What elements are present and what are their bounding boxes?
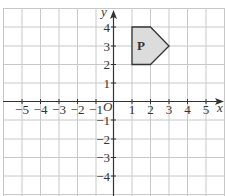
x-axis-label: x xyxy=(216,100,223,115)
svg-text:2: 2 xyxy=(104,57,111,72)
svg-text:3: 3 xyxy=(104,39,111,54)
svg-text:1: 1 xyxy=(104,76,111,91)
origin-label: O xyxy=(103,99,113,114)
svg-text:−3: −3 xyxy=(96,150,110,165)
svg-text:−5: −5 xyxy=(15,102,29,117)
svg-text:−3: −3 xyxy=(52,102,66,117)
svg-text:−2: −2 xyxy=(96,132,110,147)
svg-text:3: 3 xyxy=(166,102,173,117)
svg-text:−4: −4 xyxy=(34,102,48,117)
svg-text:−2: −2 xyxy=(71,102,85,117)
shape-label: P xyxy=(137,38,145,53)
coordinate-grid: −5 −4 −3 −2 −1 1 2 3 4 5 4 3 2 1 −1 −2 −… xyxy=(0,0,226,196)
svg-text:−4: −4 xyxy=(96,169,110,184)
svg-text:5: 5 xyxy=(203,102,210,117)
y-axis-label: y xyxy=(99,4,107,19)
svg-text:1: 1 xyxy=(129,102,136,117)
svg-text:4: 4 xyxy=(104,20,111,35)
svg-text:2: 2 xyxy=(147,102,154,117)
svg-text:−1: −1 xyxy=(96,113,110,128)
svg-text:4: 4 xyxy=(184,102,191,117)
